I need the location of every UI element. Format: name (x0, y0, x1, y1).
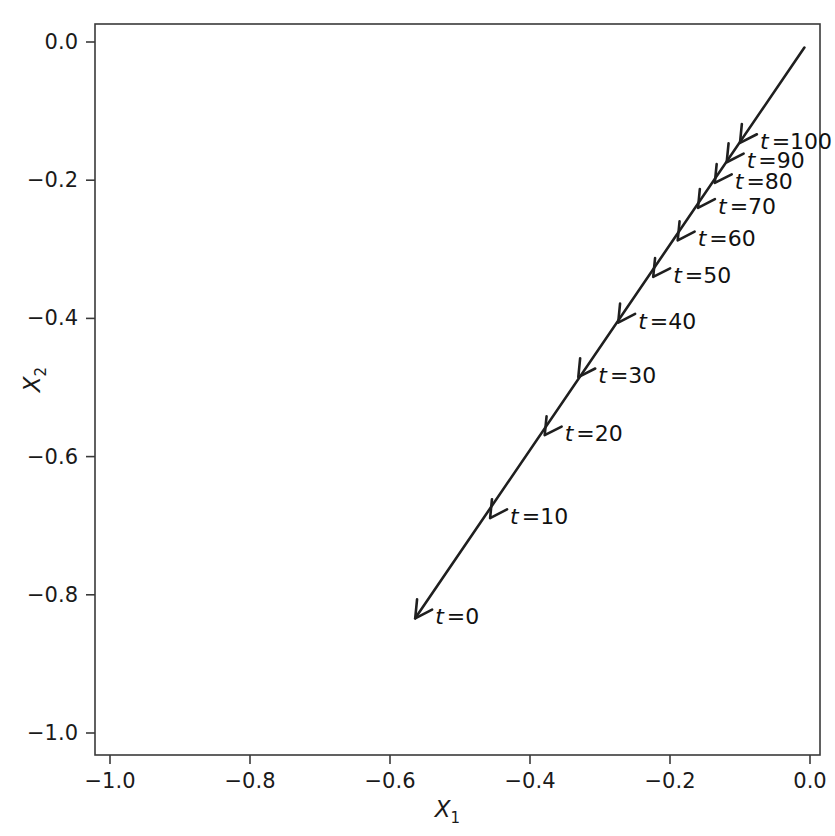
y-tick-label: −1.0 (27, 721, 78, 745)
plot-background (0, 0, 835, 836)
y-tick-label: −0.2 (27, 168, 78, 192)
time-label: t=100 (760, 129, 832, 154)
y-tick-label: −0.4 (27, 306, 78, 330)
y-tick-label: −0.6 (27, 445, 78, 469)
time-label: t=0 (435, 604, 479, 629)
y-tick-label: −0.8 (27, 583, 78, 607)
x-tick-label: −0.4 (505, 769, 556, 793)
x-tick-label: −0.2 (645, 769, 696, 793)
y-tick-label: 0.0 (45, 30, 78, 54)
x-tick-label: −1.0 (85, 769, 136, 793)
x-tick-label: −0.8 (225, 769, 276, 793)
x-tick-label: 0.0 (793, 769, 826, 793)
phase-plane-plot: −1.0−0.8−0.6−0.4−0.20.0 0.0−0.2−0.4−0.6−… (0, 0, 835, 836)
x-tick-label: −0.6 (365, 769, 416, 793)
figure-container: −1.0−0.8−0.6−0.4−0.20.0 0.0−0.2−0.4−0.6−… (0, 0, 835, 836)
